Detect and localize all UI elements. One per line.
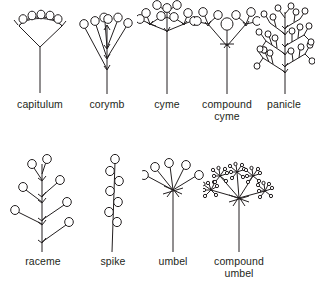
figure-label-panicle: panicle [253, 98, 315, 110]
spike-diagram [85, 150, 141, 255]
figure-cell-corymb: corymb [76, 0, 138, 110]
cyme-diagram [137, 0, 197, 98]
raceme-diagram [4, 150, 82, 255]
figure-label-cyme: cyme [137, 98, 197, 110]
figure-label-compound-umbel: compound umbel [203, 255, 275, 279]
figure-cell-raceme: raceme [4, 150, 82, 267]
figure-cell-compound-cyme: compound cyme [194, 0, 260, 122]
figure-cell-umbel: umbel [142, 150, 204, 267]
capitulum-diagram [2, 0, 78, 98]
figure-cell-cyme: cyme [137, 0, 197, 110]
figure-cell-spike: spike [85, 150, 141, 267]
figure-label-spike: spike [85, 255, 141, 267]
corymb-diagram [76, 0, 138, 98]
figure-label-corymb: corymb [76, 98, 138, 110]
figure-cell-panicle: panicle [253, 0, 315, 110]
figure-label-raceme: raceme [4, 255, 82, 267]
figure-label-umbel: umbel [142, 255, 204, 267]
top-row: capitulum [0, 0, 315, 135]
compound-umbel-diagram [203, 150, 275, 255]
figure-cell-capitulum: capitulum [2, 0, 78, 110]
compound-cyme-diagram [194, 0, 260, 98]
figure-label-compound-cyme: compound cyme [194, 98, 260, 122]
panicle-diagram [253, 0, 315, 98]
bottom-row: raceme spike [0, 150, 315, 301]
umbel-diagram [142, 150, 204, 255]
figure-cell-compound-umbel: compound umbel [203, 150, 275, 279]
figure-label-capitulum: capitulum [2, 98, 78, 110]
inflorescence-diagram-sheet: capitulum [0, 0, 315, 301]
